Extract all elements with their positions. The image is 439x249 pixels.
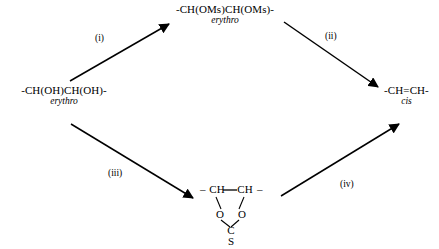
starting-diol-formula: -CH(OH)CH(OH)-	[0, 84, 128, 96]
ring-oxygen-left: O	[213, 208, 227, 220]
ring-left-open-bond: –	[200, 183, 206, 195]
arrow-iii	[71, 124, 193, 198]
reaction-label-i: (i)	[95, 33, 104, 43]
arrow-i	[70, 24, 169, 81]
node-cis-alkene-product: -CH=CH- cis	[374, 84, 439, 107]
starting-diol-descriptor: erythro	[0, 96, 128, 107]
cis-alkene-formula: -CH=CH-	[374, 84, 439, 96]
bismesylate-formula: -CH(OMs)CH(OMs)-	[135, 3, 315, 15]
reaction-label-iv: (iv)	[340, 179, 354, 189]
thiocarbonyl-sulfur: S	[224, 235, 238, 247]
reaction-scheme-diagram: -CH(OH)CH(OH)- erythro -CH(OMs)CH(OMs)- …	[0, 0, 439, 249]
reaction-label-iii: (iii)	[108, 168, 122, 178]
ring-oxygen-right: O	[235, 208, 249, 220]
reaction-label-ii: (ii)	[325, 31, 337, 41]
node-cyclic-thionocarbonate: – CH CH – O O C S	[186, 181, 286, 247]
ring-carbon-right: CH	[235, 183, 255, 195]
node-bismesylate-intermediate: -CH(OMs)CH(OMs)- erythro	[135, 3, 315, 26]
cis-alkene-descriptor: cis	[374, 96, 439, 107]
bismesylate-descriptor: erythro	[135, 15, 315, 26]
node-starting-diol: -CH(OH)CH(OH)- erythro	[0, 84, 128, 107]
ring-right-open-bond: –	[257, 183, 263, 195]
ring-carbon-left: CH	[207, 183, 227, 195]
